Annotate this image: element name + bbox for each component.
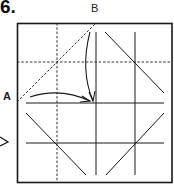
fold-arrows xyxy=(30,32,95,102)
arrow-a-to-center xyxy=(30,93,90,101)
push-arrow-icon xyxy=(0,137,8,146)
arrow-b-to-center xyxy=(86,32,93,101)
origami-fold-diagram xyxy=(0,0,174,185)
crease-lines xyxy=(26,32,164,175)
diagonal-valley-fold xyxy=(17,23,96,102)
crease-diagonal-bottom-left xyxy=(26,113,86,175)
